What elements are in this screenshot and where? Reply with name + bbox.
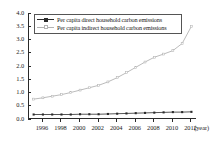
y-tick-label: 4.0	[4, 10, 24, 16]
x-axis-title: (year)	[194, 124, 209, 131]
x-tick-mark	[60, 119, 61, 122]
x-tick-mark	[172, 119, 173, 122]
legend-label-indirect: Per capita indirect household carbon emi…	[57, 24, 166, 31]
legend-item-direct: Per capita direct household carbon emiss…	[37, 16, 179, 24]
legend-item-indirect: Per capita indirect household carbon emi…	[37, 24, 179, 32]
x-tick-mark	[98, 119, 99, 122]
y-tick-label: 1.0	[4, 89, 24, 95]
x-tick-mark	[190, 119, 191, 122]
x-tick-mark	[42, 119, 43, 122]
x-tick-mark	[135, 119, 136, 122]
x-tick-mark	[79, 119, 80, 122]
x-tick-mark	[116, 119, 117, 122]
y-tick-label: 2.5	[4, 49, 24, 55]
chart-legend: Per capita direct household carbon emiss…	[34, 14, 182, 34]
y-tick-label: 3.5	[4, 23, 24, 29]
chart-figure: 0.00.51.01.52.02.53.03.54.0 199619982000…	[0, 0, 221, 143]
series-indirect-line	[33, 25, 193, 100]
y-tick-label: 0.0	[4, 116, 24, 122]
series-direct-line	[33, 111, 193, 116]
y-tick-label: 1.5	[4, 76, 24, 82]
y-tick-label: 0.5	[4, 102, 24, 108]
y-tick-label: 2.0	[4, 63, 24, 69]
legend-marker-direct-icon	[37, 16, 54, 23]
legend-marker-indirect-icon	[37, 24, 54, 31]
y-tick-label: 3.0	[4, 36, 24, 42]
legend-label-direct: Per capita direct household carbon emiss…	[57, 16, 162, 23]
x-tick-mark	[153, 119, 154, 122]
